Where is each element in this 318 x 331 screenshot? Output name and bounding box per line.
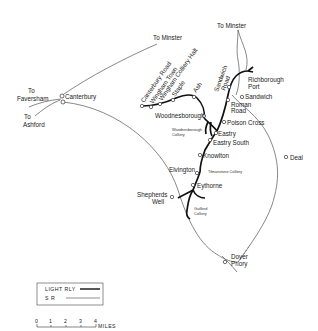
label-poison-cross: Poison Cross (227, 119, 264, 126)
label-ash: Ash (191, 80, 203, 93)
label-to-ashford-1: To (24, 113, 31, 120)
label-eastry: Eastry (218, 130, 237, 138)
label-to-ashford-2: Ashford (23, 121, 45, 128)
label-guilford-colliery-2: Colliery (194, 212, 207, 216)
label-to-minster-left: To Minster (153, 34, 182, 41)
label-tilmanstone-colliery: Tilmanstone Colliery (208, 170, 242, 174)
label-to-minster-top: To Minster (217, 22, 246, 29)
scale-tick-2: 2 (64, 318, 67, 324)
label-to-faversham-2: Faversham (17, 95, 49, 102)
railway-map: To Minster To Minster To Faversham To As… (0, 0, 318, 331)
sr-lines (29, 30, 278, 272)
label-woodnesborough-colliery-2: Colliery (172, 133, 185, 137)
label-elvington: Elvington (169, 166, 195, 174)
label-eastry-south: Eastry South (213, 139, 250, 147)
label-woodnesborough: Woodnesborough (155, 112, 205, 120)
scale-tick-3: 3 (79, 318, 82, 324)
label-roman-road-2: Road (231, 107, 247, 114)
label-guilford-colliery-1: Guilford (194, 207, 207, 211)
label-richborough-2: Port (248, 83, 260, 90)
label-woodnesborough-colliery-1: Woodnesborough (172, 128, 202, 132)
label-to-faversham-1: To (28, 87, 35, 94)
legend-sr-label: S R (45, 295, 55, 301)
label-sandwich: Sandwich (245, 93, 273, 100)
scale-tick-0: 0 (35, 318, 38, 324)
label-deal: Deal (290, 154, 303, 161)
labels: To Minster To Minster To Faversham To As… (17, 22, 303, 268)
scale-tick-1: 1 (49, 318, 52, 324)
label-dover-1: Dover (231, 253, 248, 260)
label-canterbury: Canterbury (65, 93, 97, 101)
scale-unit: MILES (98, 323, 116, 329)
legend: LIGHT RLY S R (37, 283, 103, 305)
label-knowlton: Knowlton (203, 152, 229, 159)
scale-tick-4: 4 (94, 318, 97, 324)
scale-bar: 0 1 2 3 4 MILES (35, 318, 116, 329)
label-eythorne: Eythorne (197, 182, 223, 190)
label-dover-2: Priory (231, 260, 248, 268)
label-shepherds-well-2: Well (152, 198, 164, 205)
legend-light-rly-label: LIGHT RLY (45, 286, 76, 292)
